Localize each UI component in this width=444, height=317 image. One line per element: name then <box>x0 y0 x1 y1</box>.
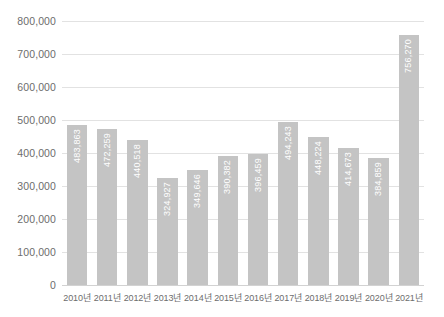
bar-slot: 756,270 <box>394 21 424 285</box>
bar[interactable]: 390,382 <box>218 156 239 285</box>
y-axis-tick-label: 500,000 <box>0 114 56 126</box>
bar-slot: 384,859 <box>364 21 394 285</box>
bar[interactable]: 448,224 <box>308 137 329 285</box>
bar-value-label: 384,859 <box>374 162 383 196</box>
bar-value-label: 494,243 <box>284 126 293 160</box>
bar-slot: 324,927 <box>153 21 183 285</box>
bar[interactable]: 756,270 <box>399 35 420 285</box>
y-axis-tick-label: 0 <box>0 279 56 291</box>
bar-value-label: 324,927 <box>163 182 172 216</box>
bar[interactable]: 494,243 <box>278 122 299 285</box>
x-axis-tick-label: 2019년 <box>334 291 364 304</box>
y-axis-tick-label: 200,000 <box>0 213 56 225</box>
bar-slot: 414,673 <box>334 21 364 285</box>
bar-value-label: 440,518 <box>133 144 142 178</box>
bar[interactable]: 440,518 <box>127 140 148 285</box>
bar-value-label: 483,863 <box>73 129 82 163</box>
gridline <box>62 285 424 286</box>
bar-value-label: 390,382 <box>223 160 232 194</box>
bar[interactable]: 349,646 <box>187 170 208 285</box>
bar-value-label: 396,459 <box>254 158 263 192</box>
bar-slot: 349,646 <box>183 21 213 285</box>
bar-slot: 440,518 <box>122 21 152 285</box>
y-axis-tick-label: 600,000 <box>0 81 56 93</box>
plot-area: 483,863472,259440,518324,927349,646390,3… <box>62 21 424 285</box>
x-axis-tick-label: 2017년 <box>273 291 303 304</box>
bar-slot: 494,243 <box>273 21 303 285</box>
x-axis-tick-label: 2014년 <box>183 291 213 304</box>
bar[interactable]: 483,863 <box>67 125 88 285</box>
bar-slot: 483,863 <box>62 21 92 285</box>
y-axis-tick-label: 300,000 <box>0 180 56 192</box>
bar-slot: 448,224 <box>303 21 333 285</box>
bar-value-label: 414,673 <box>344 152 353 186</box>
bar-value-label: 756,270 <box>404 39 413 73</box>
bar-slot: 472,259 <box>92 21 122 285</box>
bar-slot: 396,459 <box>243 21 273 285</box>
x-axis-tick-label: 2013년 <box>153 291 183 304</box>
x-axis-tick-label: 2021년 <box>394 291 424 304</box>
x-axis-tick-label: 2012년 <box>122 291 152 304</box>
y-axis-tick-label: 700,000 <box>0 48 56 60</box>
x-axis-tick-label: 2011년 <box>92 291 122 304</box>
bar[interactable]: 324,927 <box>157 178 178 285</box>
x-axis-tick-label: 2020년 <box>364 291 394 304</box>
y-axis-tick-label: 400,000 <box>0 147 56 159</box>
bar-value-label: 472,259 <box>103 133 112 167</box>
y-axis-tick-label: 800,000 <box>0 15 56 27</box>
x-axis-tick-label: 2010년 <box>62 291 92 304</box>
bar[interactable]: 384,859 <box>368 158 389 285</box>
bar-value-label: 448,224 <box>314 141 323 175</box>
y-axis-tick-label: 100,000 <box>0 246 56 258</box>
bar-chart: 800,000700,000600,000500,000400,000300,0… <box>0 0 444 317</box>
bar-slot: 390,382 <box>213 21 243 285</box>
x-axis-tick-label: 2015년 <box>213 291 243 304</box>
bar[interactable]: 472,259 <box>97 129 118 285</box>
bar-value-label: 349,646 <box>193 174 202 208</box>
x-axis-tick-label: 2018년 <box>303 291 333 304</box>
x-axis-tick-label: 2016년 <box>243 291 273 304</box>
bar[interactable]: 396,459 <box>248 154 269 285</box>
bar[interactable]: 414,673 <box>338 148 359 285</box>
